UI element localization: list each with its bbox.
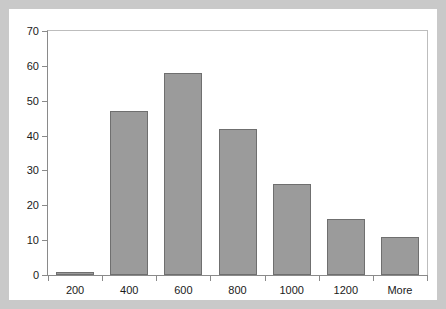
y-axis-label: 30 (27, 165, 39, 176)
y-axis-tick (42, 205, 48, 206)
y-axis-tick (42, 31, 48, 32)
x-axis-label: More (387, 285, 412, 296)
bar (327, 219, 365, 275)
x-axis-label: 800 (228, 285, 246, 296)
x-axis-label: 1200 (334, 285, 358, 296)
y-axis-label: 50 (27, 95, 39, 106)
chart-outer-frame: 010203040506070 20040060080010001200More (0, 0, 446, 309)
bar (56, 272, 94, 275)
x-axis-tick (102, 275, 103, 281)
x-axis-tick (319, 275, 320, 281)
bar (381, 237, 419, 275)
y-axis-tick (42, 240, 48, 241)
chart-canvas: 010203040506070 20040060080010001200More (9, 9, 437, 300)
y-axis-label: 20 (27, 200, 39, 211)
y-axis-label: 60 (27, 60, 39, 71)
x-axis-tick (427, 275, 428, 281)
bar (219, 129, 257, 275)
bar (110, 111, 148, 275)
x-axis-label: 600 (174, 285, 192, 296)
y-axis-label: 40 (27, 130, 39, 141)
x-axis-tick (373, 275, 374, 281)
y-axis-tick (42, 170, 48, 171)
x-axis-label: 200 (66, 285, 84, 296)
x-axis-tick (156, 275, 157, 281)
y-axis-tick (42, 136, 48, 137)
x-axis-label: 1000 (279, 285, 303, 296)
x-axis-label: 400 (120, 285, 138, 296)
y-axis-label: 0 (33, 270, 39, 281)
plot-area: 010203040506070 20040060080010001200More (47, 30, 428, 276)
x-axis-tick (48, 275, 49, 281)
y-axis-label: 10 (27, 235, 39, 246)
x-axis-tick (265, 275, 266, 281)
y-axis-label: 70 (27, 26, 39, 37)
plot-inner-surface: 010203040506070 20040060080010001200More (48, 31, 427, 275)
bar (273, 184, 311, 275)
bar (164, 73, 202, 275)
y-axis-tick (42, 66, 48, 67)
y-axis-tick (42, 101, 48, 102)
x-axis-tick (210, 275, 211, 281)
